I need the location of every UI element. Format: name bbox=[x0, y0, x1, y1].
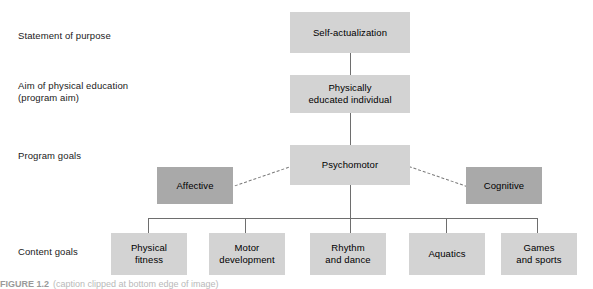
node-physical-fitness: Physical fitness bbox=[111, 233, 187, 275]
connector-content-goals-bus bbox=[148, 218, 537, 219]
figure-diagram: Statement of purpose Aim of physical edu… bbox=[0, 0, 593, 289]
figure-caption: FIGURE 1.2(caption clipped at bottom edg… bbox=[0, 279, 593, 289]
node-games-and-sports: Games and sports bbox=[501, 233, 577, 275]
connector-bus-to-games-and-sports bbox=[537, 218, 538, 233]
connector-purpose-to-aim bbox=[350, 53, 351, 75]
row-label-program-goals: Program goals bbox=[18, 150, 81, 162]
node-affective: Affective bbox=[157, 167, 233, 204]
figure-caption-text: (caption clipped at bottom edge of image… bbox=[53, 279, 219, 289]
node-cognitive: Cognitive bbox=[466, 167, 542, 204]
connector-bus-to-rhythm-and-dance bbox=[350, 218, 351, 233]
node-self-actualization: Self-actualization bbox=[290, 12, 410, 53]
node-physically-educated-individual: Physically educated individual bbox=[290, 75, 410, 113]
connector-bus-to-aquatics bbox=[446, 218, 447, 233]
figure-caption-tag: FIGURE 1.2 bbox=[0, 279, 49, 289]
row-label-statement-of-purpose: Statement of purpose bbox=[18, 30, 111, 42]
node-rhythm-and-dance: Rhythm and dance bbox=[310, 233, 386, 275]
node-aquatics: Aquatics bbox=[409, 233, 485, 275]
connector-bus-to-motor-development bbox=[245, 218, 246, 233]
node-motor-development: Motor development bbox=[209, 233, 285, 275]
row-label-aim-of-physical-education: Aim of physical education (program aim) bbox=[18, 80, 128, 104]
connector-bus-to-physical-fitness bbox=[148, 218, 149, 233]
row-label-content-goals: Content goals bbox=[18, 246, 78, 258]
connector-psychomotor-to-bus bbox=[350, 185, 351, 218]
connector-psychomotor-to-cognitive bbox=[409, 166, 468, 187]
connector-aim-to-psychomotor bbox=[350, 113, 351, 145]
node-psychomotor: Psychomotor bbox=[290, 145, 410, 185]
connector-psychomotor-to-affective bbox=[230, 167, 289, 188]
